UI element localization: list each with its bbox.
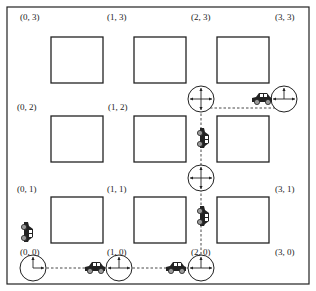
- car-icon: [197, 128, 209, 148]
- car-icon: [252, 93, 272, 105]
- car-icon: [197, 206, 209, 226]
- city-block: [51, 197, 103, 243]
- node-label: (2, 0): [191, 247, 211, 257]
- node-label: (0, 1): [17, 184, 37, 194]
- city-block: [134, 197, 186, 243]
- node-label: (0, 3): [20, 12, 40, 22]
- intersection-signal-icon: [20, 255, 46, 281]
- city-block: [217, 116, 269, 162]
- car-icon: [85, 262, 105, 274]
- car-icon: [21, 222, 33, 242]
- node-label: (1, 3): [107, 12, 127, 22]
- intersection-signal-icon: [188, 255, 214, 281]
- node-label: (2, 3): [191, 12, 211, 22]
- city-block: [217, 37, 269, 83]
- grid-diagram: (0, 3)(1, 3)(2, 3)(3, 3)(0, 2)(1, 2)(0, …: [0, 0, 316, 291]
- node-label: (1, 0): [107, 247, 127, 257]
- city-block: [51, 116, 103, 162]
- intersection-signal-icon: [188, 165, 214, 191]
- node-label: (0, 0): [20, 247, 40, 257]
- intersection-signal-icon: [188, 86, 214, 112]
- node-label: (0, 2): [17, 102, 37, 112]
- city-block: [134, 116, 186, 162]
- intersection-signal-icon: [106, 255, 132, 281]
- city-block: [217, 197, 269, 243]
- intersection-signal-icon: [271, 86, 297, 112]
- city-block: [51, 37, 103, 83]
- node-label: (1, 1): [107, 184, 127, 194]
- car-icon: [166, 262, 186, 274]
- node-label: (3, 1): [275, 184, 295, 194]
- node-label: (3, 0): [275, 247, 295, 257]
- node-label: (1, 2): [108, 102, 128, 112]
- node-label: (3, 3): [275, 12, 295, 22]
- city-block: [134, 37, 186, 83]
